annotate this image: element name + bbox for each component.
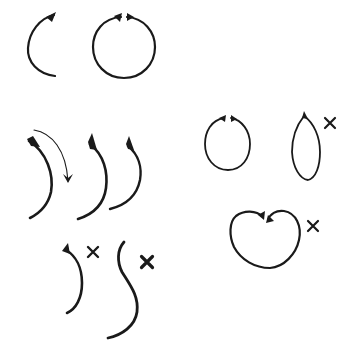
hook-incorrect-figure	[62, 243, 98, 313]
incorrect-x-icon	[325, 118, 335, 128]
brush-stroke	[78, 144, 106, 219]
brush-stroke	[230, 211, 299, 268]
brush-stroke	[28, 15, 55, 76]
narrow-oval-incorrect-figure	[292, 111, 335, 180]
incorrect-x-icon	[142, 257, 153, 268]
curve-direction-figure	[34, 130, 73, 183]
arrowhead-icon	[302, 111, 308, 119]
brush-stroke	[205, 118, 250, 170]
arrowhead-icon	[62, 243, 70, 254]
arrowhead-icon	[219, 115, 226, 122]
arrowhead-icon	[27, 136, 40, 147]
s-curve-incorrect-figure	[108, 242, 153, 338]
arrowhead-icon	[258, 211, 265, 220]
arrowhead-icon	[231, 115, 237, 122]
full-circle-figure	[93, 13, 155, 78]
arrowhead-icon	[46, 12, 56, 22]
open-arc-figure	[28, 12, 56, 76]
arrowhead-icon	[88, 133, 97, 150]
heart-incorrect-figure	[230, 211, 318, 268]
right-curves-figure	[27, 133, 141, 219]
brush-stroke-diagram: Brush stroke exercises: curves, circles …	[0, 0, 353, 364]
arrowhead-icon	[127, 13, 134, 21]
incorrect-x-icon	[88, 247, 98, 257]
incorrect-x-icon	[308, 221, 318, 231]
brush-stroke	[110, 146, 141, 209]
brush-stroke	[93, 17, 155, 78]
arrowhead-icon	[126, 136, 134, 150]
brush-stroke	[66, 250, 82, 313]
brush-stroke	[108, 242, 137, 338]
brush-stroke	[29, 141, 52, 218]
brush-stroke	[292, 116, 320, 180]
small-circle-figure	[205, 115, 250, 170]
